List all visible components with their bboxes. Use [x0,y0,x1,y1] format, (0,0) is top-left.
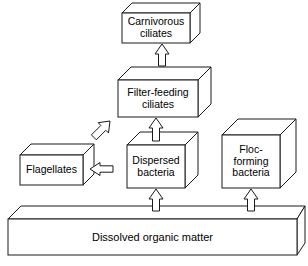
node-dispersed-bacteria [127,132,198,188]
arrow-flagellates-to-filter-icon [91,121,110,140]
node-floc-forming-bacteria [222,119,296,188]
flagellates-front-face [20,155,83,185]
arrow-filter-to-carnivorous-icon [155,44,169,66]
flagellates-top-face [20,144,94,155]
food-web-diagram: Carnivorous ciliates Filter-feeding cili… [0,0,308,266]
floc-forming-bacteria-front-face [222,135,280,188]
carnivorous-ciliates-top-face [122,3,200,13]
dispersed-bacteria-front-face [127,145,185,188]
node-filter-feeding-ciliates [118,67,211,117]
filter-feeding-ciliates-top-face [118,67,211,80]
node-flagellates [20,144,94,185]
dissolved-organic-matter-front-face [8,219,297,255]
node-dissolved-organic-matter [8,206,305,255]
node-carnivorous-ciliates [122,3,200,43]
filter-feeding-ciliates-front-face [118,80,198,117]
diagram-canvas [0,0,308,266]
carnivorous-ciliates-front-face [122,13,190,43]
